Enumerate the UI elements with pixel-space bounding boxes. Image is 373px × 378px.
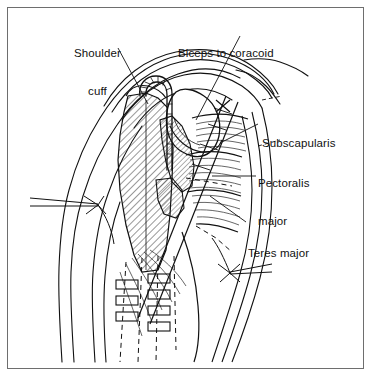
suture-staple-group	[116, 274, 170, 331]
label-subscapularis-line1: Subscapularis	[262, 137, 336, 150]
label-teres-major-line1: Teres major	[248, 247, 309, 260]
leader-subscapularis	[222, 124, 258, 142]
label-teres-major: Teres major	[248, 222, 309, 285]
label-pectoralis-major-line1: Pectoralis	[258, 177, 310, 190]
staple-3	[116, 312, 138, 321]
leader-dash-subscapularis	[262, 96, 282, 100]
axillary-fold	[182, 232, 199, 362]
lower-fibers-6	[120, 272, 142, 336]
left-incision-edge	[98, 205, 114, 244]
left-retractor-group	[30, 196, 114, 244]
pectoralis-fibers-3	[189, 173, 241, 178]
staple-2	[116, 296, 138, 305]
instrument-tip-cross	[216, 100, 230, 112]
staple-7	[148, 322, 170, 331]
teres-fibers-3	[195, 210, 240, 217]
label-biceps-to-coracoid: Biceps to coracoid	[178, 22, 274, 85]
teres-fibers-2	[193, 202, 240, 209]
anatomical-figure: Shoulder cuff Biceps to coracoid Subscap…	[0, 0, 373, 378]
right-incision-edge	[212, 238, 230, 273]
deltoid-bulge-left-2	[104, 202, 120, 362]
label-shoulder-cuff-line1: Shoulder	[74, 47, 121, 60]
teres-lower-border	[196, 224, 238, 232]
label-shoulder-cuff-line2: cuff	[74, 85, 121, 98]
staple-6	[148, 306, 170, 315]
pectoralis-fibers-4	[189, 180, 241, 185]
dashed-teres-edge	[196, 226, 232, 252]
label-shoulder-cuff: Shoulder cuff	[74, 22, 121, 122]
label-biceps-to-coracoid-line1: Biceps to coracoid	[178, 47, 274, 60]
right-retractor-tip	[218, 264, 240, 282]
